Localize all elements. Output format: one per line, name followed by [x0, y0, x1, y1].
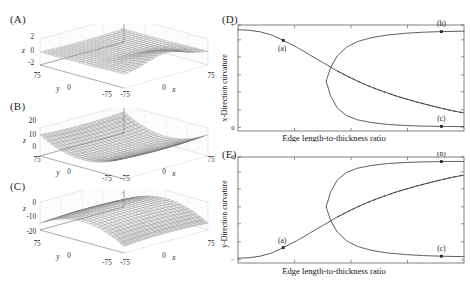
- y-axis-label-a: y: [55, 84, 60, 93]
- curve-upper-stable-branch: [238, 30, 464, 113]
- y-tick-a-0: 75: [33, 72, 41, 80]
- z-tick-b-0: 20: [29, 117, 37, 125]
- x-axis-label-c: x: [171, 253, 176, 262]
- curve-unstable-branch: [337, 175, 464, 217]
- surface-plot-b: 20 10 0 z 75 0 -75 y -75 0 75 x: [12, 108, 230, 182]
- y-tick-label: 0: [231, 153, 235, 160]
- x-axis-label-b: x: [171, 169, 176, 178]
- y-tick-label: −: [231, 256, 235, 263]
- z-tick-a-2: -2: [28, 59, 34, 67]
- bifurcation-plot-d: +0(a)(b)(c) x-Direction curvature Edge l…: [216, 20, 470, 142]
- z-axis-label-a: z: [21, 46, 25, 55]
- marker-label-b: (b): [437, 20, 446, 28]
- curve-fold-upper-branch: [326, 31, 464, 81]
- y-tick-a-1: 0: [67, 84, 71, 92]
- z-tick-b-2: 0: [32, 143, 36, 151]
- z-tick-c-2: -20: [26, 228, 36, 236]
- curve-lower-stable-branch: [238, 175, 464, 258]
- x-tick-c-0: -75: [120, 259, 130, 267]
- x-tick-c-1: 0: [162, 252, 166, 260]
- curve-fold-upper-branch: [326, 161, 464, 206]
- bifurcation-svg-d: +0(a)(b)(c) x-Direction curvature Edge l…: [216, 20, 470, 142]
- z-tick-c-1: -10: [26, 213, 36, 221]
- y-tick-c-2: -75: [102, 259, 112, 267]
- x-tick-b-0: -75: [120, 175, 130, 182]
- marker-label-b: (b): [437, 152, 446, 158]
- data-marker: [440, 255, 443, 258]
- y-tick-label: 0: [231, 124, 235, 131]
- x-tick-b-2: 75: [207, 156, 215, 164]
- x-axis-title-e: Edge length-to-thickness ratio: [282, 266, 386, 276]
- y-axis-title-e: y-Direction curvature: [220, 180, 229, 248]
- bifurcation-svg-e: 0−(a)(b)(c) y-Direction curvature Edge l…: [216, 152, 470, 278]
- x-tick-a-2: 75: [207, 72, 215, 80]
- x-axis-label-a: x: [171, 85, 176, 94]
- y-axis-label-c: y: [55, 252, 60, 261]
- y-tick-b-2: -75: [102, 175, 112, 182]
- marker-label-c: (c): [437, 244, 446, 253]
- curve-unstable-branch: [337, 71, 464, 113]
- z-tick-a-0: 2: [30, 33, 34, 41]
- z-axis-label-b: z: [22, 136, 26, 145]
- x-tick-b-1: 0: [162, 168, 166, 176]
- surface-svg-c: 0 -10 -20 z 75 0 -75 y -75 0 75 x: [12, 190, 230, 268]
- surface-svg-a: 2 0 -2 z 75 0 -75 y -75 0 75 x: [12, 24, 230, 98]
- y-tick-c-0: 75: [33, 240, 41, 248]
- data-marker: [282, 246, 285, 249]
- x-tick-c-2: 75: [207, 240, 215, 248]
- y-tick-b-0: 75: [33, 156, 41, 164]
- marker-label-a: (a): [278, 44, 287, 53]
- data-marker: [440, 30, 443, 33]
- x-axis-title-d: Edge length-to-thickness ratio: [282, 133, 386, 142]
- y-tick-c-1: 0: [67, 252, 71, 260]
- y-tick-label: +: [231, 21, 235, 28]
- z-tick-a-1: 0: [30, 47, 34, 55]
- bifurcation-plot-e: 0−(a)(b)(c) y-Direction curvature Edge l…: [216, 152, 470, 278]
- x-tick-a-0: -75: [120, 91, 130, 98]
- data-marker: [440, 125, 443, 128]
- y-axis-title-d: x-Direction curvature: [220, 54, 229, 122]
- y-axis-label-b: y: [55, 168, 60, 177]
- z-tick-b-1: 10: [29, 131, 37, 139]
- x-tick-a-1: 0: [162, 84, 166, 92]
- z-tick-c-0: 0: [32, 199, 36, 207]
- y-tick-a-2: -75: [102, 91, 112, 98]
- y-tick-b-1: 0: [67, 168, 71, 176]
- surface-plot-c: 0 -10 -20 z 75 0 -75 y -75 0 75 x: [12, 190, 230, 268]
- marker-label-a: (a): [278, 236, 287, 245]
- surface-plot-a: 2 0 -2 z 75 0 -75 y -75 0 75 x: [12, 24, 230, 98]
- marker-label-c: (c): [437, 114, 446, 123]
- data-marker: [282, 39, 285, 42]
- z-axis-label-c: z: [22, 204, 26, 213]
- figure-root: (A) 2 0 -2 z 75 0 -75 y -75 0 75 x (B) 2…: [0, 0, 470, 292]
- data-marker: [440, 160, 443, 163]
- surface-svg-b: 20 10 0 z 75 0 -75 y -75 0 75 x: [12, 108, 230, 182]
